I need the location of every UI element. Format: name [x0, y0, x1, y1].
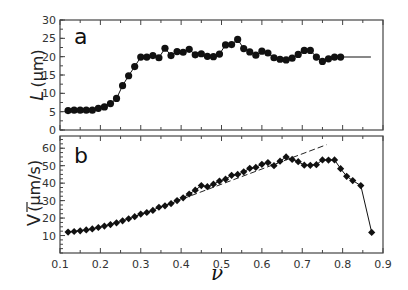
x-tick-label: 0.7: [294, 258, 312, 271]
svg-text:V(µm/s): V(µm/s): [23, 160, 44, 226]
data-point-b: [228, 172, 235, 179]
data-point-b: [234, 171, 241, 178]
data-point-b: [325, 156, 332, 163]
y-tick-label: 30: [42, 195, 56, 208]
data-point-a: [186, 46, 193, 53]
data-point-a: [173, 48, 180, 55]
x-tick-label: 0.3: [132, 258, 150, 271]
data-point-a: [337, 53, 344, 60]
series-line-b: [68, 157, 372, 232]
data-point-a: [131, 63, 138, 70]
data-point-a: [155, 54, 162, 61]
data-point-b: [210, 181, 217, 188]
y-axis-unit-a: (µm): [28, 49, 47, 87]
data-point-b: [295, 158, 302, 165]
data-point-b: [143, 209, 150, 216]
x-tick-label: 0.2: [92, 258, 110, 271]
data-point-b: [357, 182, 364, 189]
data-point-b: [186, 190, 193, 197]
panel-b-plot: 0.10.20.30.40.50.60.70.80.9102030405060: [42, 136, 392, 271]
data-point-b: [167, 200, 174, 207]
data-point-a: [240, 45, 247, 52]
data-point-b: [368, 229, 375, 236]
data-point-b: [264, 159, 271, 166]
data-point-a: [264, 49, 271, 56]
data-point-b: [240, 168, 247, 175]
y-tick-label: 60: [42, 142, 56, 155]
x-tick-label: 0.4: [172, 258, 190, 271]
y-axis-unit-b: (µm/s): [25, 160, 44, 212]
y-tick-label: 50: [42, 160, 56, 173]
data-point-b: [101, 223, 108, 230]
data-point-b: [192, 187, 199, 194]
data-point-a: [258, 48, 265, 55]
data-point-b: [149, 207, 156, 214]
x-tick-label: 0.6: [253, 258, 271, 271]
data-point-a: [276, 56, 283, 63]
data-point-a: [289, 55, 296, 62]
y-tick-label: 30: [42, 14, 56, 27]
data-point-b: [113, 219, 120, 226]
data-point-a: [234, 36, 241, 43]
figure: 051015202530 0.10.20.30.40.50.60.70.80.9…: [0, 0, 408, 290]
y-tick-label: 20: [42, 212, 56, 225]
y-axis-symbol-a: L: [26, 91, 47, 101]
data-point-b: [137, 210, 144, 217]
data-point-b: [246, 165, 253, 172]
data-point-b: [77, 227, 84, 234]
y-axis-title-a: L(µm): [26, 49, 47, 100]
y-tick-label: 0: [49, 124, 56, 137]
data-point-a: [295, 51, 302, 58]
panel-b-label: b: [74, 143, 88, 168]
data-point-a: [107, 100, 114, 107]
plot-frame: [60, 136, 383, 253]
data-point-a: [125, 72, 132, 79]
data-point-a: [167, 52, 174, 59]
data-point-a: [101, 103, 108, 110]
data-point-b: [252, 164, 259, 171]
data-point-a: [143, 53, 150, 60]
data-point-b: [89, 225, 96, 232]
data-point-a: [119, 82, 126, 89]
data-point-a: [313, 53, 320, 60]
data-point-a: [113, 95, 120, 102]
data-point-a: [89, 107, 96, 114]
plot-frame: [60, 20, 383, 130]
data-point-b: [107, 221, 114, 228]
data-point-a: [95, 105, 102, 112]
data-point-b: [349, 177, 356, 184]
data-point-b: [173, 197, 180, 204]
panel-a-plot: 051015202530: [42, 14, 383, 137]
data-point-b: [64, 228, 71, 235]
data-point-a: [228, 41, 235, 48]
data-point-a: [307, 47, 314, 54]
data-point-b: [198, 182, 205, 189]
panel-a-label: a: [74, 24, 87, 49]
data-point-b: [258, 161, 265, 168]
x-tick-label: 0.8: [334, 258, 352, 271]
data-point-b: [119, 217, 126, 224]
y-tick-label: 40: [42, 177, 56, 190]
data-point-b: [71, 228, 78, 235]
data-point-a: [283, 56, 290, 63]
data-point-b: [331, 156, 338, 163]
data-point-b: [125, 215, 132, 222]
data-point-a: [192, 51, 199, 58]
data-point-a: [252, 52, 259, 59]
data-point-b: [204, 183, 211, 190]
x-tick-label: 0.9: [374, 258, 392, 271]
data-point-a: [270, 54, 277, 61]
data-point-a: [246, 48, 253, 55]
y-axis-title-b: V(µm/s): [23, 160, 44, 226]
x-tick-label: 0.1: [51, 258, 69, 271]
data-point-a: [161, 45, 168, 52]
data-point-b: [83, 226, 90, 233]
data-point-b: [95, 224, 102, 231]
data-point-a: [325, 55, 332, 62]
data-point-b: [307, 162, 314, 169]
data-point-b: [161, 202, 168, 209]
y-axis-symbol-b: V: [23, 213, 44, 226]
y-tick-label: 5: [49, 106, 56, 119]
svg-text:L(µm): L(µm): [26, 49, 47, 100]
data-point-b: [180, 194, 187, 201]
